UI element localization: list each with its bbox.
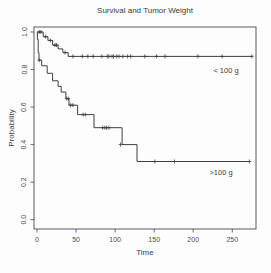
x-tick-label: 250 [226,236,238,243]
censor-marks-0 [37,30,254,58]
x-tick-label: 150 [148,236,160,243]
y-tick-label: 0.0 [21,215,28,225]
censor-marks-1 [37,58,251,163]
x-tick-label: 0 [35,236,39,243]
km-curve-0 [37,32,252,56]
y-tick-label: 0.8 [21,65,28,75]
x-tick-label: 200 [187,236,199,243]
y-tick-label: 0.6 [21,102,28,112]
km-plot: 0501001502002500.00.20.40.60.81.0 [0,0,271,273]
x-tick-label: 50 [72,236,80,243]
survival-figure: Survival and Tumor Weight Probability Ti… [0,0,271,273]
km-curve-1 [37,32,249,162]
y-tick-label: 1.0 [21,27,28,37]
y-tick-label: 0.4 [21,140,28,150]
x-tick-label: 100 [109,236,121,243]
y-tick-label: 0.2 [21,177,28,187]
